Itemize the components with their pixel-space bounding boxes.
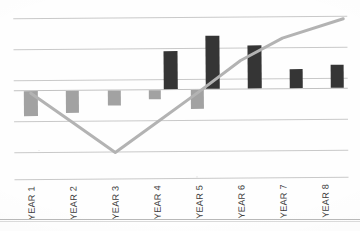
page-bottom-rule	[0, 219, 360, 220]
tick-label-year-6: YEAR 6	[234, 177, 248, 218]
tick-label-year-7: YEAR 7	[276, 177, 290, 218]
tick-label-year-3: YEAR 3	[108, 178, 122, 219]
bar-gray-year-3	[108, 90, 121, 105]
bar-gray-year-2	[66, 91, 79, 113]
bar-dark-year-5	[205, 36, 219, 89]
tick-label-year-1: YEAR 1	[24, 179, 38, 220]
bar-gray-year-1	[24, 91, 38, 116]
gridline-4	[14, 119, 348, 123]
chart-figure: YEAR 1 YEAR 2 YEAR 3 YEAR 4 YEAR 5 YEAR …	[0, 0, 360, 231]
x-axis-labels: YEAR 1 YEAR 2 YEAR 3 YEAR 4 YEAR 5 YEAR …	[14, 177, 348, 221]
bar-gray-year-5	[191, 90, 204, 109]
gridline-5	[14, 150, 348, 154]
scan-speck	[38, 150, 40, 151]
tick-label-year-4: YEAR 4	[150, 178, 164, 219]
scan-speck	[196, 176, 198, 178]
bar-dark-year-6	[247, 45, 261, 88]
bar-gray-year-4	[149, 90, 161, 99]
tick-label-year-2: YEAR 2	[66, 179, 80, 220]
tick-label-year-5: YEAR 5	[192, 178, 206, 219]
bar-dark-year-4	[163, 51, 177, 89]
gridline-baseline	[14, 88, 348, 92]
scanned-page: YEAR 1 YEAR 2 YEAR 3 YEAR 4 YEAR 5 YEAR …	[0, 0, 360, 231]
plot-area	[13, 7, 348, 186]
gridline-2	[13, 47, 347, 51]
bar-dark-year-7	[290, 69, 303, 88]
tick-label-year-8: YEAR 8	[318, 177, 332, 218]
bar-dark-year-8	[331, 65, 344, 88]
page-bottom-rule-2	[0, 221, 360, 222]
gridline-1	[13, 16, 347, 20]
